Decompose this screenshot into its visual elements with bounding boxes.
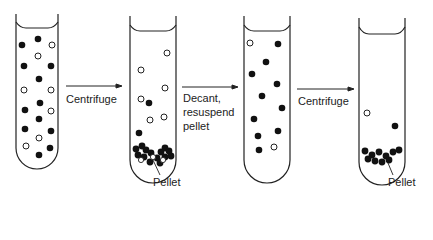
step-1-label: Centrifuge: [66, 92, 117, 106]
pellet-label-1: Pellet: [153, 175, 181, 189]
tube-1-particles: [19, 36, 55, 159]
pellet-label-2: Pellet: [388, 175, 416, 189]
step-2-label-line-3: pellet: [183, 119, 209, 133]
tube-3-particles: [247, 40, 285, 153]
tube-4-particles: [362, 110, 403, 165]
step-2-label-line-1: Decant,: [183, 91, 221, 105]
tube-2-particles: [133, 50, 175, 166]
step-3-label: Centrifuge: [298, 94, 349, 108]
pellet-2: [362, 147, 403, 166]
step-2-label-line-2: resuspend: [183, 105, 234, 119]
